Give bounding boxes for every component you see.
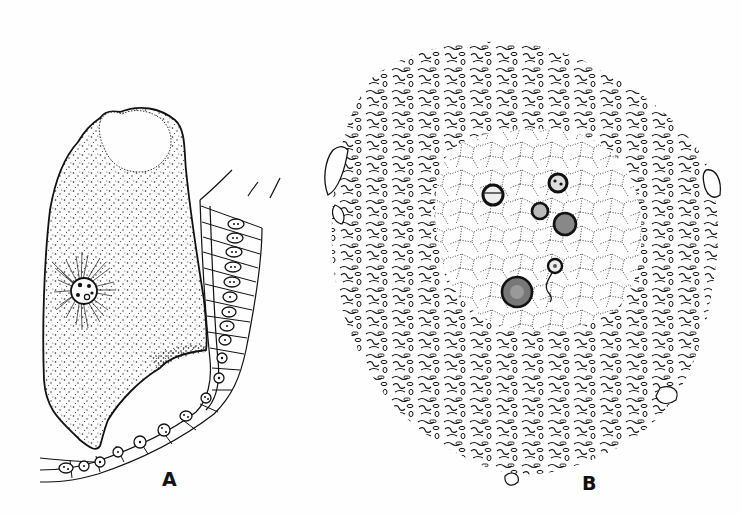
panel-label-a: A — [162, 470, 177, 489]
panel-label-b: B — [582, 474, 596, 493]
panel-b-drawing — [0, 0, 742, 515]
figure: A B — [0, 0, 742, 515]
